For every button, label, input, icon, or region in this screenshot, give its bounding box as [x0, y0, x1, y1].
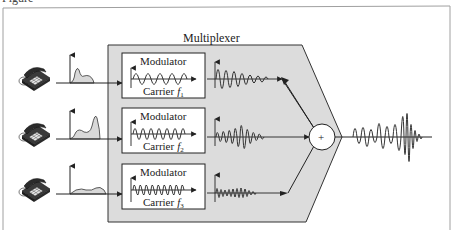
baseband-spectrum-2: [70, 116, 100, 139]
multiplexer-label: Multiplexer: [183, 31, 240, 45]
carrier-label-1: Carrierf1: [143, 85, 184, 99]
modulator-label-3: Modulator: [140, 166, 187, 178]
modulator-label-1: Modulator: [140, 55, 187, 67]
fdm-multiplexer-diagram: Multiplexer Modulator Carrierf1 Modulato…: [0, 0, 457, 230]
carrier-label-3: Carrierf3: [143, 196, 184, 210]
baseband-spectrum-1: [70, 69, 94, 83]
telephone-icon: [19, 123, 50, 147]
carrier-label-2: Carrierf2: [143, 140, 184, 154]
baseband-spectrum-3: [70, 187, 106, 194]
telephone-icon: [19, 178, 50, 202]
modulator-label-2: Modulator: [140, 110, 187, 122]
sum-symbol: +: [318, 131, 324, 143]
telephone-icon: [19, 67, 50, 91]
